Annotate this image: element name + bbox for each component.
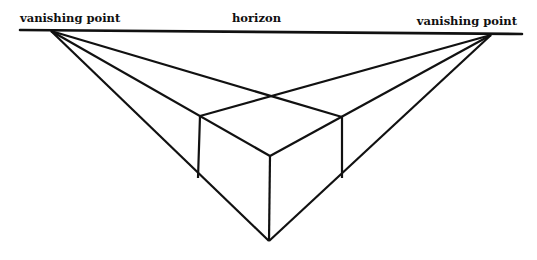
right-vanishing-point-label: vanishing point bbox=[417, 16, 517, 28]
two-point-perspective-diagram: vanishing point horizon vanishing point bbox=[0, 0, 537, 260]
perspective-drawing bbox=[0, 0, 537, 260]
left-vanishing-point-label: vanishing point bbox=[20, 13, 120, 25]
horizon-label: horizon bbox=[232, 13, 281, 25]
box-front-vertical-edge bbox=[269, 156, 270, 241]
horizon-line bbox=[20, 30, 522, 34]
box-left-vertical-edge bbox=[198, 116, 200, 178]
